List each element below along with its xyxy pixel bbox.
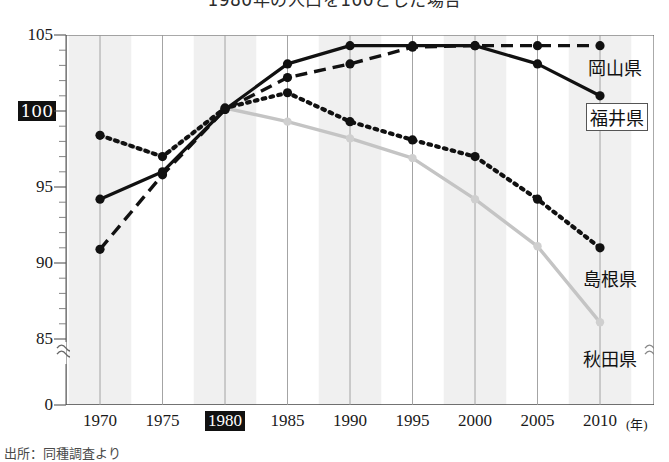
data-point-島根県-1975 — [158, 152, 167, 161]
x-axis-unit-label: (年) — [626, 414, 648, 433]
data-point-秋田県-2010 — [596, 318, 604, 326]
data-point-秋田県-2005 — [533, 242, 541, 250]
x-tick-label-2000: 2000 — [458, 411, 492, 431]
plot-area — [66, 35, 654, 405]
data-point-岡山県-2005 — [533, 41, 542, 50]
data-point-福井県-1975 — [158, 167, 167, 176]
y-axis-break-symbol — [57, 345, 70, 357]
data-point-福井県-2000 — [470, 41, 479, 50]
chart-title: 1980年の人口を100とした場合 — [0, 0, 669, 11]
x-tick-label-2010: 2010 — [583, 411, 617, 431]
series-label-秋田県: 秋田県 — [583, 345, 637, 371]
data-point-島根県-2010 — [595, 243, 604, 252]
data-point-福井県-1970 — [95, 195, 104, 204]
data-point-岡山県-1990 — [345, 59, 354, 68]
data-point-福井県-2005 — [533, 59, 542, 68]
x-tick-label-1970: 1970 — [83, 411, 117, 431]
data-point-福井県-1995 — [408, 41, 417, 50]
y-axis-svg — [0, 0, 70, 462]
data-point-秋田県-2000 — [471, 195, 479, 203]
data-point-島根県-1995 — [408, 135, 417, 144]
data-point-福井県-2010 — [595, 91, 604, 100]
x-tick-label-1990: 1990 — [333, 411, 367, 431]
x-tick-label-1975: 1975 — [146, 411, 180, 431]
data-point-福井県-1980 — [220, 105, 229, 114]
x-tick-label-1985: 1985 — [271, 411, 305, 431]
data-point-岡山県-2010 — [595, 41, 604, 50]
x-tick-label-1995: 1995 — [396, 411, 430, 431]
x-tick-label-2005: 2005 — [521, 411, 555, 431]
data-point-福井県-1990 — [345, 41, 354, 50]
series-label-岡山県: 岡山県 — [588, 54, 642, 80]
data-point-秋田県-1985 — [283, 117, 291, 125]
series-label-福井県: 福井県 — [586, 103, 648, 131]
data-point-島根県-1990 — [345, 117, 354, 126]
x-axis: 197019751980198519901995200020052010(年) — [0, 411, 669, 439]
data-point-秋田県-1990 — [346, 134, 354, 142]
data-point-島根県-1970 — [95, 131, 104, 140]
plot-svg — [66, 35, 654, 405]
data-point-島根県-2005 — [533, 195, 542, 204]
data-point-島根県-2000 — [470, 152, 479, 161]
data-point-福井県-1985 — [283, 59, 292, 68]
x-tick-label-1980: 1980 — [205, 411, 245, 431]
data-point-岡山県-1970 — [95, 245, 104, 254]
data-point-島根県-1985 — [283, 88, 292, 97]
plot-right-break-symbol — [645, 345, 654, 357]
chart-container: 1980年の人口を100とした場合 1051009590850 19701975… — [0, 0, 669, 462]
data-point-秋田県-1995 — [408, 154, 416, 162]
series-label-島根県: 島根県 — [583, 265, 637, 291]
data-point-岡山県-1985 — [283, 73, 292, 82]
